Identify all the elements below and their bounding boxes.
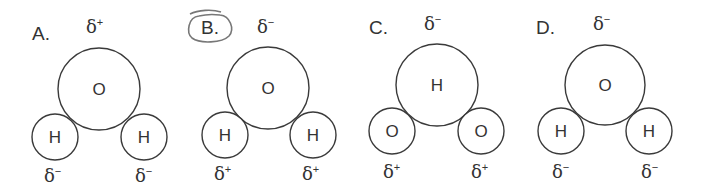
left-atom-symbol: H: [555, 122, 567, 141]
left-partial-charge: δ−: [552, 161, 569, 182]
top-partial-charge: δ−: [593, 13, 610, 34]
left-atom-symbol: O: [385, 122, 398, 141]
option-label: B.: [201, 17, 219, 38]
option-label: C.: [369, 17, 388, 38]
option-label: D.: [536, 17, 555, 38]
left-atom-symbol: H: [219, 126, 231, 145]
top-partial-charge: δ+: [86, 16, 103, 37]
option-d[interactable]: D. δ− O H H δ− δ−: [536, 13, 672, 182]
right-partial-charge: δ−: [641, 161, 658, 182]
top-partial-charge: δ−: [424, 13, 441, 34]
option-label: A.: [32, 23, 50, 44]
center-atom-symbol: O: [598, 76, 611, 95]
right-atom-symbol: H: [138, 128, 150, 147]
center-atom-symbol: H: [431, 76, 443, 95]
right-partial-charge: δ+: [302, 163, 319, 184]
option-a[interactable]: A. δ+ O H H δ− δ−: [32, 16, 167, 186]
left-atom-symbol: H: [49, 128, 61, 147]
left-partial-charge: δ−: [44, 165, 61, 186]
right-partial-charge: δ+: [471, 161, 488, 182]
option-b[interactable]: B. δ− O H H δ+ δ+: [189, 10, 336, 184]
left-partial-charge: δ+: [214, 163, 231, 184]
right-atom-symbol: H: [643, 122, 655, 141]
top-partial-charge: δ−: [257, 16, 274, 37]
right-partial-charge: δ−: [135, 165, 152, 186]
left-partial-charge: δ+: [383, 161, 400, 182]
water-molecule-options-diagram: A. δ+ O H H δ− δ− B. δ− O H H δ+ δ+ C. δ…: [0, 0, 704, 186]
center-atom-symbol: O: [92, 80, 105, 99]
center-atom-symbol: O: [261, 79, 274, 98]
right-atom-symbol: O: [474, 122, 487, 141]
right-atom-symbol: H: [307, 126, 319, 145]
option-c[interactable]: C. δ− H O O δ+ δ+: [369, 13, 504, 182]
